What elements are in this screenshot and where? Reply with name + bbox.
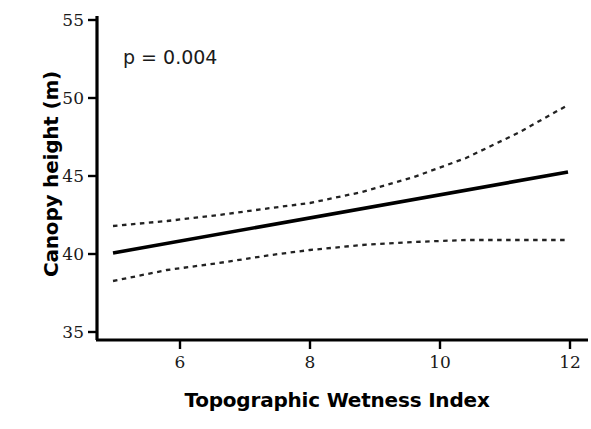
x-tick-label-10: 10 <box>420 352 460 372</box>
lower-confidence-band <box>113 240 568 281</box>
x-tick-label-6: 6 <box>160 352 200 372</box>
y-axis-title: Canopy height (m) <box>34 4 68 344</box>
x-tick-label-8: 8 <box>290 352 330 372</box>
upper-confidence-band <box>113 105 568 226</box>
canopy-height-vs-twi-figure: 55 50 45 40 35 6 8 10 12 p = 0.004 Canop… <box>0 0 591 429</box>
x-tick-label-12: 12 <box>550 352 590 372</box>
p-value-annotation: p = 0.004 <box>123 46 217 68</box>
x-axis-title: Topographic Wetness Index <box>97 388 577 412</box>
